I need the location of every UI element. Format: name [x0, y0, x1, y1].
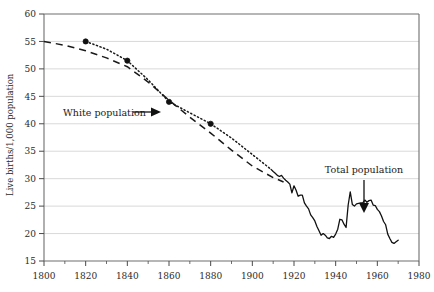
- plot-area-background: [44, 14, 419, 261]
- x-tick-label: 1980: [408, 271, 431, 281]
- x-tick-label: 1820: [74, 271, 97, 281]
- data-point-marker: [208, 121, 213, 126]
- x-tick-label: 1960: [366, 271, 389, 281]
- x-tick-label: 1920: [283, 271, 306, 281]
- x-axis-tick-labels: 1800182018401860188019001920194019601980: [33, 271, 431, 281]
- annotation-total-population-label: Total population: [325, 164, 403, 175]
- y-axis-title: Live births/1,000 population: [5, 73, 15, 196]
- y-axis-ticks: [39, 14, 44, 261]
- y-tick-label: 15: [25, 256, 37, 266]
- x-tick-label: 1800: [33, 271, 56, 281]
- chart-container: 15202530354045505560 1800182018401860188…: [0, 0, 434, 292]
- y-tick-label: 40: [25, 119, 37, 129]
- x-tick-label: 1860: [158, 271, 181, 281]
- data-point-marker: [83, 39, 88, 44]
- birth-rate-line-chart: 15202530354045505560 1800182018401860188…: [0, 0, 434, 292]
- data-point-marker: [166, 99, 171, 104]
- y-tick-label: 45: [25, 92, 37, 102]
- y-tick-label: 30: [25, 174, 37, 184]
- x-tick-label: 1940: [324, 271, 347, 281]
- y-tick-label: 20: [25, 229, 37, 239]
- y-tick-label: 25: [25, 201, 37, 211]
- x-tick-label: 1900: [241, 271, 264, 281]
- y-tick-label: 60: [25, 9, 37, 19]
- y-axis-tick-labels: 15202530354045505560: [25, 9, 37, 266]
- y-tick-label: 55: [25, 37, 37, 47]
- data-point-marker: [125, 58, 130, 63]
- y-tick-label: 35: [25, 146, 37, 156]
- x-tick-label: 1880: [199, 271, 222, 281]
- y-tick-label: 50: [25, 64, 37, 74]
- x-tick-label: 1840: [116, 271, 139, 281]
